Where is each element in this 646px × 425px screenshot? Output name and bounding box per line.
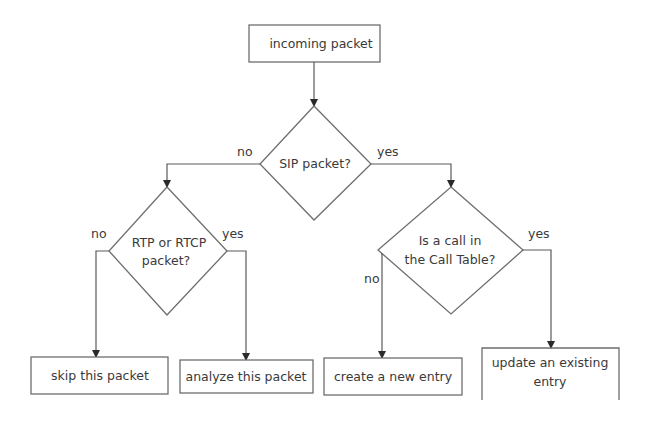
- flowchart-canvas: incoming packet SIP packet? no yes RTP o…: [0, 0, 646, 425]
- rtp-diamond: [109, 187, 227, 315]
- rtp-no-label: no: [91, 226, 107, 241]
- update-entry-label-line2: entry: [533, 374, 567, 389]
- incoming-packet-label: incoming packet: [269, 36, 372, 51]
- node-analyze-packet: analyze this packet: [180, 360, 313, 393]
- node-update-entry: update an existing entry: [482, 348, 619, 400]
- rtp-label-line1: RTP or RTCP: [132, 235, 207, 250]
- create-entry-label: create a new entry: [334, 369, 453, 384]
- node-incoming-packet: incoming packet: [249, 25, 380, 62]
- node-call-table-decision: Is a call in the Call Table?: [378, 187, 523, 314]
- edge-call-table-no: [381, 254, 382, 358]
- node-sip-packet-decision: SIP packet?: [260, 106, 371, 220]
- rtp-yes-label: yes: [222, 226, 244, 241]
- edge-sip-yes: [371, 164, 451, 187]
- sip-no-label: no: [237, 144, 253, 159]
- edge-call-table-yes: [523, 250, 551, 348]
- edge-rtp-no: [96, 251, 109, 357]
- call-table-label-line1: Is a call in: [419, 233, 482, 248]
- call-table-no-label: no: [364, 271, 380, 286]
- update-entry-label-line1: update an existing: [492, 355, 609, 370]
- call-table-diamond: [378, 187, 523, 314]
- call-table-yes-label: yes: [528, 226, 550, 241]
- sip-label: SIP packet?: [279, 156, 351, 171]
- edge-sip-no: [167, 164, 260, 187]
- analyze-packet-label: analyze this packet: [186, 369, 307, 384]
- skip-packet-label: skip this packet: [51, 368, 149, 383]
- rtp-label-line2: packet?: [142, 253, 191, 268]
- call-table-label-line2: the Call Table?: [405, 252, 496, 267]
- node-skip-packet: skip this packet: [31, 357, 168, 394]
- sip-yes-label: yes: [377, 144, 399, 159]
- node-rtp-decision: RTP or RTCP packet?: [109, 187, 227, 315]
- edge-rtp-yes: [227, 251, 246, 360]
- node-create-entry: create a new entry: [324, 358, 462, 395]
